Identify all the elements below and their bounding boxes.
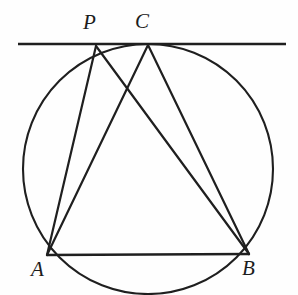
segment-AB <box>47 254 249 255</box>
circle-outline <box>23 44 273 294</box>
point-label-P: P <box>83 12 96 33</box>
geometry-figure: P C A B <box>0 0 298 295</box>
segment-PA <box>47 46 96 255</box>
point-label-A: A <box>31 259 44 280</box>
figure-canvas <box>0 0 298 295</box>
point-label-C: C <box>135 11 149 32</box>
segment-CB <box>148 45 249 254</box>
point-label-B: B <box>242 258 255 279</box>
segment-PB <box>96 46 249 254</box>
segment-CA <box>47 45 148 255</box>
